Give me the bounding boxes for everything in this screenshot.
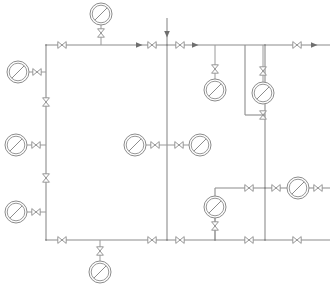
valve-gauge-center-right-right-wedge — [179, 142, 183, 149]
valve-top-header-center-left-right-wedge — [152, 42, 156, 49]
valve-bottom-header-left[interactable] — [58, 237, 66, 244]
valve-top-header-right-right-wedge — [297, 42, 301, 49]
pid-diagram-canvas — [0, 0, 330, 290]
valve-left-riser-lower-bottom-wedge — [43, 178, 50, 182]
valve-branch-right-far[interactable] — [314, 185, 322, 192]
gauge-left-middle[interactable] — [5, 134, 27, 156]
valve-left-riser-lower[interactable] — [43, 174, 50, 182]
gauge-left-upper[interactable] — [7, 61, 29, 83]
flow-arrow-top-header-outlet — [311, 42, 318, 48]
valve-top-header-right[interactable] — [293, 42, 301, 49]
valve-left-riser-upper[interactable] — [43, 98, 50, 106]
gauge-left-lower[interactable] — [5, 201, 27, 223]
valve-branch-right-center[interactable] — [272, 185, 280, 192]
flow-arrow-top-inlet-down — [164, 31, 170, 38]
valve-gauge-left-upper[interactable] — [33, 69, 41, 76]
valve-gauge-left-middle-right-wedge — [36, 142, 40, 149]
valve-gauge-center-right[interactable] — [175, 142, 183, 149]
valve-top-header-center-left[interactable] — [148, 42, 156, 49]
valve-gauge-left-middle[interactable] — [32, 142, 40, 149]
valve-gauge-lower-right-branch[interactable] — [212, 222, 219, 230]
valve-branch-right-center-right-wedge — [276, 185, 280, 192]
valve-gauge-left-lower[interactable] — [32, 209, 40, 216]
valve-gauge-bottom-center-bottom-wedge — [97, 251, 104, 255]
junction-top-center — [166, 44, 168, 46]
valve-gauge-bottom-center[interactable] — [97, 247, 104, 255]
valve-gauge-top-center-bottom-wedge — [98, 33, 105, 37]
valve-bottom-header-right-a-right-wedge — [180, 237, 184, 244]
gauge-far-right[interactable] — [287, 177, 309, 199]
junction-layer — [45, 44, 266, 241]
valve-gauge-left-lower-right-wedge — [36, 209, 40, 216]
valve-top-header-left[interactable] — [58, 42, 66, 49]
valve-bottom-header-far-right-right-wedge — [297, 237, 301, 244]
valve-bottom-header-center[interactable] — [148, 237, 156, 244]
valve-top-header-center-right[interactable] — [176, 42, 184, 49]
gauge-center-left[interactable] — [124, 134, 146, 156]
valve-branch-right-left-right-wedge — [249, 185, 253, 192]
flow-arrow-top-header-b — [192, 42, 199, 48]
valve-gauge-left-upper-right-wedge — [37, 69, 41, 76]
valve-gauge-center-left-right-wedge — [155, 142, 159, 149]
gauge-top-center[interactable] — [90, 3, 112, 25]
valve-branch-right-left[interactable] — [245, 185, 253, 192]
junction-bottom-right — [264, 239, 266, 241]
valve-bottom-header-far-right[interactable] — [293, 237, 301, 244]
valve-branch-right-far-right-wedge — [318, 185, 322, 192]
valve-top-header-left-right-wedge — [62, 42, 66, 49]
valve-gauge-upper-right-a[interactable] — [212, 65, 219, 73]
junction-bottom-center — [166, 239, 168, 241]
junction-top-left — [45, 44, 47, 46]
gauge-center-right[interactable] — [189, 134, 211, 156]
valve-layer — [32, 29, 322, 255]
junction-branch-drop — [214, 239, 216, 241]
valve-bottom-header-right-b[interactable] — [245, 237, 253, 244]
valve-gauge-lower-right-branch-bottom-wedge — [212, 226, 219, 230]
pipe-layer — [27, 18, 330, 261]
gauge-upper-right-a[interactable] — [204, 79, 226, 101]
gauge-lower-right-branch[interactable] — [204, 196, 226, 218]
valve-bottom-header-center-right-wedge — [152, 237, 156, 244]
valve-left-riser-upper-bottom-wedge — [43, 102, 50, 106]
valve-gauge-top-center[interactable] — [98, 29, 105, 37]
valve-gauge-upper-right-a-bottom-wedge — [212, 69, 219, 73]
junction-bottom-left — [45, 239, 47, 241]
valve-bottom-header-right-a[interactable] — [176, 237, 184, 244]
valve-gauge-center-left[interactable] — [151, 142, 159, 149]
pid-drawing — [0, 0, 330, 290]
flow-arrow-top-header-a — [136, 42, 143, 48]
gauge-bottom-center[interactable] — [89, 261, 111, 283]
gauge-upper-right-b[interactable] — [252, 82, 274, 104]
junction-branch-right — [264, 187, 266, 189]
junction-top-right — [264, 44, 266, 46]
valve-top-header-center-right-right-wedge — [180, 42, 184, 49]
valve-bottom-header-left-right-wedge — [62, 237, 66, 244]
valve-bottom-header-right-b-right-wedge — [249, 237, 253, 244]
